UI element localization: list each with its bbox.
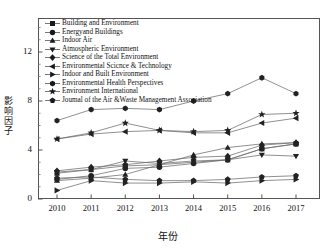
- legend-item[interactable]: Indoor and Built Environment: [44, 70, 212, 79]
- legend-item[interactable]: Science of the Total Environment: [44, 53, 212, 62]
- legend-marker-circle-icon: [44, 28, 61, 37]
- legend-marker-diamond-icon: [44, 53, 61, 62]
- legend-item[interactable]: Environmental Health Perspectives: [44, 79, 212, 88]
- series-triangle-down: [54, 153, 299, 175]
- legend-label: Environmental Scicnce & Technology: [61, 62, 172, 71]
- legend-marker-triangle-left-icon: [44, 62, 61, 71]
- legend-label: Indoor Air: [61, 36, 92, 45]
- x-tick-label: 2017: [279, 203, 313, 213]
- x-tick-label: 2010: [40, 203, 74, 213]
- legend-marker-triangle-down-icon: [44, 45, 61, 54]
- legend-label: Joumal of the Air &Waste Management Asso…: [61, 96, 212, 105]
- legend-label: Indoor and Built Environment: [61, 70, 149, 79]
- legend-marker-hexagon-icon: [44, 79, 61, 88]
- x-tick-label: 2015: [211, 203, 245, 213]
- legend-marker-triangle-up-icon: [44, 36, 61, 45]
- legend-item[interactable]: Building and Environment: [44, 19, 212, 28]
- legend-marker-pentagon-icon: [44, 96, 61, 105]
- legend-label: Atmospheric Environment: [61, 45, 138, 54]
- legend-label: Energyand Buildings: [61, 28, 123, 37]
- legend-label: Environment International: [61, 87, 138, 96]
- x-tick-label: 2011: [74, 203, 108, 213]
- x-tick-label: 2012: [108, 203, 142, 213]
- legend-label: Science of the Total Environment: [61, 53, 158, 62]
- series-triangle-left: [54, 115, 299, 142]
- legend-marker-square-icon: [44, 19, 61, 28]
- series-star: [53, 109, 299, 142]
- legend-label: Environmental Health Perspectives: [61, 79, 163, 88]
- legend-marker-triangle-right-icon: [44, 70, 61, 79]
- x-tick-label: 2016: [245, 203, 279, 213]
- legend-item[interactable]: Joumal of the Air &Waste Management Asso…: [44, 96, 212, 105]
- legend-label: Building and Environment: [61, 19, 139, 28]
- x-tick-label: 2013: [142, 203, 176, 213]
- y-tick-label: 12: [12, 46, 32, 56]
- y-tick-label: 0: [12, 193, 32, 203]
- legend: Building and EnvironmentEnergyand Buildi…: [44, 19, 212, 104]
- y-tick-label: 4: [12, 144, 32, 154]
- legend-item[interactable]: Indoor Air: [44, 36, 212, 45]
- chart-figure: 影 响 因 子 年份 04812 20102011201220132014201…: [0, 0, 335, 248]
- y-tick-label: 8: [12, 95, 32, 105]
- legend-marker-star-icon: [44, 87, 61, 96]
- legend-item[interactable]: Energyand Buildings: [44, 28, 212, 37]
- legend-item[interactable]: Environmental Scicnce & Technology: [44, 62, 212, 71]
- legend-item[interactable]: Environment International: [44, 87, 212, 96]
- x-tick-label: 2014: [177, 203, 211, 213]
- legend-item[interactable]: Atmospheric Environment: [44, 45, 212, 54]
